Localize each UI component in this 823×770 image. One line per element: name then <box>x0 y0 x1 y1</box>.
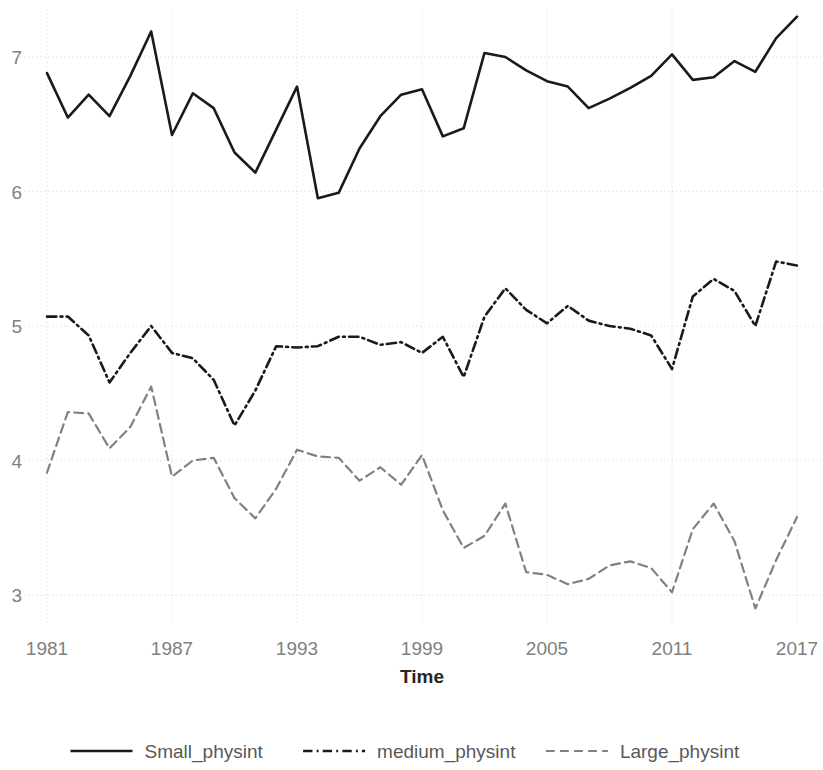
x-axis-tick-label: 2017 <box>776 638 818 659</box>
x-axis-tick-label: 1993 <box>276 638 318 659</box>
y-axis-tick-label: 6 <box>11 182 22 203</box>
y-axis-tick-label: 3 <box>11 585 22 606</box>
legend-label: medium_physint <box>377 741 516 763</box>
x-axis-tick-labels: 1981198719931999200520112017 <box>26 638 818 659</box>
chart-legend: Small_physintmedium_physintLarge_physint <box>71 741 740 763</box>
x-axis-tick-label: 2005 <box>526 638 568 659</box>
x-axis-tick-label: 1987 <box>151 638 193 659</box>
chart-figure: 34567 1981198719931999200520112017 Time … <box>0 0 823 770</box>
series-lines <box>47 17 797 609</box>
y-axis-tick-labels: 34567 <box>11 47 22 606</box>
series-line-large_physint <box>47 387 797 609</box>
gridlines <box>20 10 823 625</box>
y-axis-tick-label: 7 <box>11 47 22 68</box>
x-axis-tick-label: 2011 <box>652 638 693 659</box>
x-axis-tick-label: 1999 <box>401 638 443 659</box>
legend-label: Small_physint <box>145 741 264 763</box>
y-axis-tick-label: 4 <box>11 451 22 472</box>
x-axis-title: Time <box>400 666 444 687</box>
y-axis-tick-label: 5 <box>11 316 22 337</box>
x-axis-tick-label: 1981 <box>26 638 68 659</box>
legend-label: Large_physint <box>620 741 740 763</box>
line-chart: 34567 1981198719931999200520112017 Time … <box>0 0 823 770</box>
